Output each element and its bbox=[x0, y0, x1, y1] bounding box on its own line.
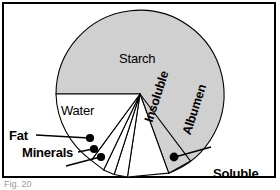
pie-label-soluble-sugars: Soluble Sugars bbox=[213, 140, 259, 190]
figure-container: Starch Water Fat Minerals Soluble Albume… bbox=[0, 0, 280, 190]
pie-label-soluble-sugars-line1: Soluble bbox=[213, 167, 259, 180]
figure-caption: Fig. 20 bbox=[4, 179, 32, 189]
callout-dot-soluble-albumen[interactable] bbox=[97, 153, 105, 161]
callout-dot-minerals[interactable] bbox=[90, 145, 98, 153]
callout-dot-fat[interactable] bbox=[86, 134, 94, 142]
pie-label-insoluble-albumen-line2: Albumen bbox=[180, 82, 209, 137]
pie-label-minerals: Minerals bbox=[22, 146, 73, 159]
pie-label-fat: Fat bbox=[9, 129, 28, 142]
callout-dot-soluble-sugars[interactable] bbox=[170, 153, 179, 162]
pie-label-water: Water bbox=[61, 104, 94, 117]
pie-label-insoluble-albumen-line1: Insoluble bbox=[143, 70, 172, 125]
